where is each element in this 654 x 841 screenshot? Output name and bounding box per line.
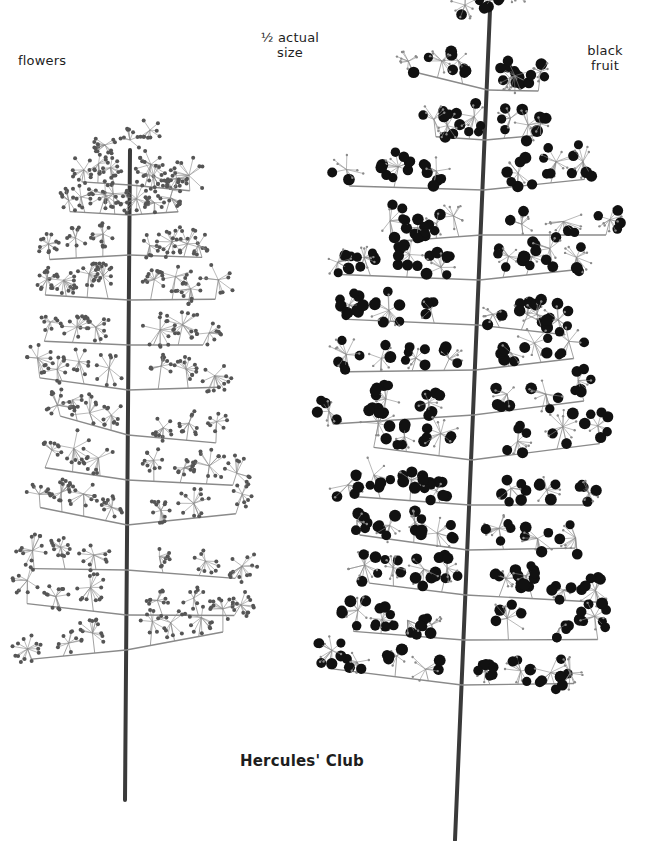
flowers-label-text: flowers xyxy=(18,53,66,68)
black-fruit-label: black fruit xyxy=(580,43,630,73)
scale-label: ½ actual size xyxy=(255,30,325,60)
flowers-label: flowers xyxy=(18,53,66,68)
plate-title: Hercules' Club xyxy=(232,754,372,769)
fruit-label-line1: black xyxy=(580,43,630,58)
fruit-label-line2: fruit xyxy=(580,58,630,73)
scale-label-line2: size xyxy=(255,45,325,60)
plate-title-text: Hercules' Club xyxy=(240,752,364,770)
black-fruit-illustration xyxy=(0,0,654,841)
scale-label-line1: ½ actual xyxy=(255,30,325,45)
